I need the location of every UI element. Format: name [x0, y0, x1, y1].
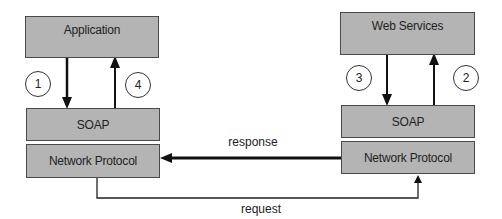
request-arrow	[97, 177, 418, 198]
step-3-number: 3	[356, 71, 363, 85]
step-3-badge: 3	[346, 65, 372, 91]
step-2-number: 2	[463, 71, 470, 85]
application-label: Application	[64, 23, 121, 37]
web-services-box: Web Services	[340, 12, 475, 55]
response-label: response	[228, 135, 277, 149]
client-soap-label: SOAP	[77, 118, 110, 132]
step-2-badge: 2	[453, 65, 479, 91]
request-label: request	[241, 202, 281, 216]
client-network-protocol-label: Network Protocol	[49, 154, 137, 168]
step-1-number: 1	[35, 77, 42, 91]
web-services-label: Web Services	[372, 19, 443, 33]
server-soap-box: SOAP	[341, 105, 475, 138]
step-4-badge: 4	[125, 72, 151, 98]
step-1-badge: 1	[25, 71, 51, 97]
server-network-protocol-box: Network Protocol	[341, 141, 475, 174]
step-4-number: 4	[135, 78, 142, 92]
soap-architecture-diagram: Application SOAP Network Protocol 1 4 We…	[0, 0, 502, 219]
server-soap-label: SOAP	[392, 115, 425, 129]
client-soap-box: SOAP	[26, 108, 160, 141]
application-box: Application	[25, 16, 159, 58]
server-network-protocol-label: Network Protocol	[364, 151, 452, 165]
client-network-protocol-box: Network Protocol	[26, 144, 160, 178]
